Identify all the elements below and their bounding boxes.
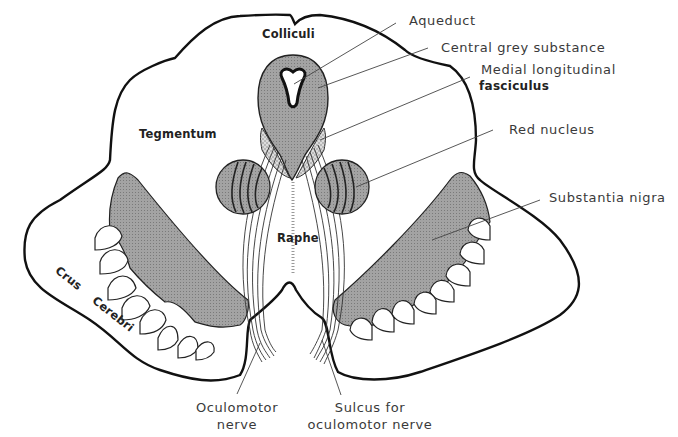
label-oculomotor-nerve-2: oculomotor nerve bbox=[290, 418, 450, 431]
label-oculomotor: Oculomotor bbox=[172, 401, 302, 414]
label-aqueduct: Aqueduct bbox=[409, 14, 476, 27]
label-medial-longitudinal: Medial longitudinal bbox=[481, 63, 616, 76]
label-tegmentum: Tegmentum bbox=[139, 129, 217, 141]
label-sulcus-for: Sulcus for bbox=[295, 401, 445, 414]
label-red-nucleus: Red nucleus bbox=[509, 123, 595, 136]
label-raphe: Raphe bbox=[277, 233, 319, 245]
label-substantia-nigra: Substantia nigra bbox=[549, 191, 666, 204]
label-fasciculus: fasciculus bbox=[479, 80, 549, 92]
label-central-grey-substance: Central grey substance bbox=[441, 41, 605, 54]
midbrain-diagram: Colliculi Aqueduct Central grey substanc… bbox=[0, 0, 678, 437]
label-colliculi: Colliculi bbox=[262, 29, 315, 41]
label-nerve: nerve bbox=[172, 418, 302, 431]
